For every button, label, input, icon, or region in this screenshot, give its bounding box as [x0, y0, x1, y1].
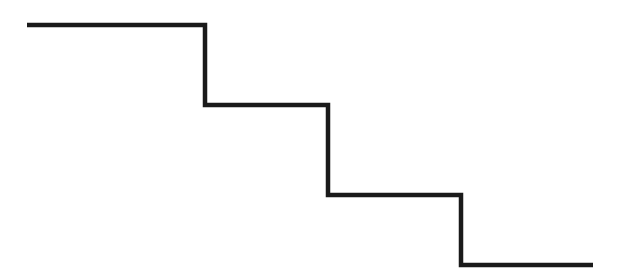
step-line-diagram: Descending step line A single continuous… [0, 0, 621, 279]
diagram-background [0, 0, 621, 279]
diagram-canvas: Descending step line A single continuous… [0, 0, 621, 279]
